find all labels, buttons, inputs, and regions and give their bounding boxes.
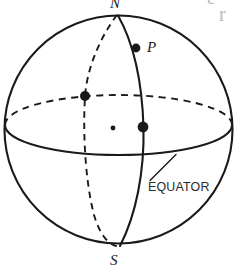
dashed-meridian-equator-dot bbox=[80, 91, 90, 101]
equator-label: EQUATOR bbox=[148, 180, 210, 194]
south-pole-label: S bbox=[110, 253, 118, 268]
page-bleed-glyph-2: r bbox=[219, 4, 226, 24]
equator-back-arc bbox=[5, 95, 232, 125]
north-pole-label: N bbox=[110, 0, 120, 11]
equator-leader-line bbox=[150, 155, 176, 181]
equator-front-arc bbox=[5, 125, 232, 155]
sphere-diagram-canvas bbox=[0, 0, 240, 278]
sphere-center-dot bbox=[111, 126, 116, 131]
meridian-back-dashed bbox=[84, 15, 118, 247]
front-meridian-equator-dot bbox=[138, 122, 149, 133]
point-p-label: P bbox=[147, 40, 156, 55]
page-bleed-glyph-1: e bbox=[207, 0, 215, 7]
sphere-outline-circle bbox=[5, 16, 233, 244]
sphere-figure: N P EQUATOR S e r bbox=[0, 0, 240, 278]
point-p-dot bbox=[132, 44, 141, 53]
